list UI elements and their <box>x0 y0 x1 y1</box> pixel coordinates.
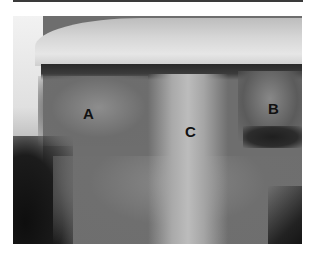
skin-flap <box>35 18 302 66</box>
label-c: C <box>185 124 196 139</box>
top-rule <box>13 0 303 2</box>
shadow-lower-right <box>268 186 302 244</box>
label-b: B <box>268 101 279 116</box>
region-b-shadow <box>243 126 302 148</box>
label-a: A <box>83 106 94 121</box>
region-c-fascia <box>148 74 228 244</box>
surgical-photo <box>13 16 302 244</box>
